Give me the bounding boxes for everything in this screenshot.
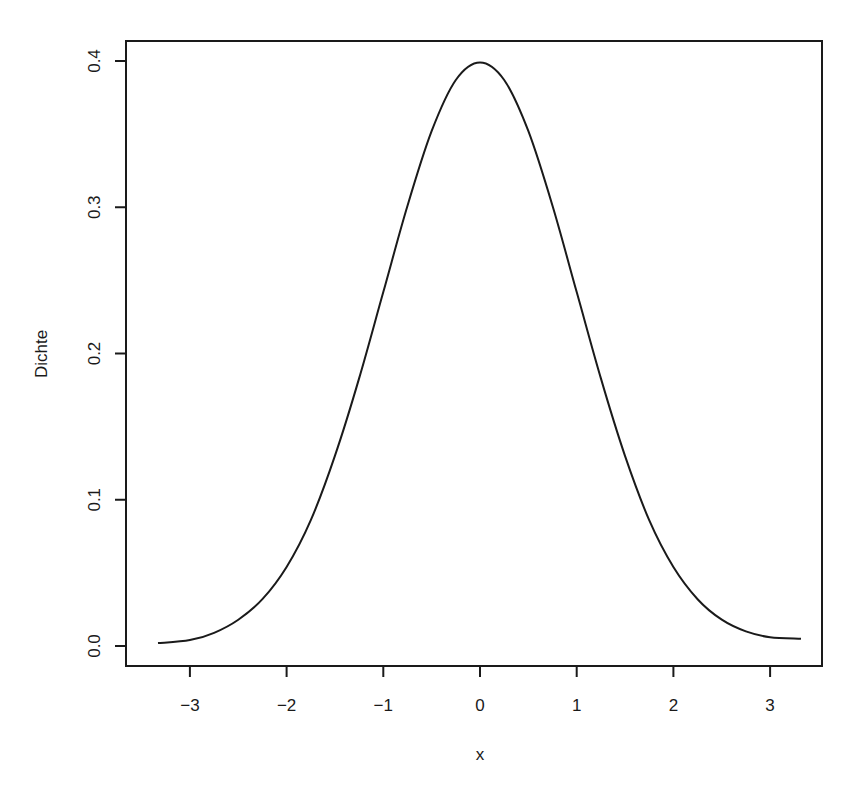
density-plot: −3−2−10123 0.00.10.20.30.4 x Dichte	[0, 0, 859, 793]
x-tick-label: −1	[374, 696, 393, 715]
plot-frame	[126, 41, 822, 666]
y-tick-label: 0.2	[85, 342, 104, 366]
density-curve	[158, 63, 801, 644]
y-tick-label: 0.1	[85, 488, 104, 512]
x-tick-label: −3	[180, 696, 199, 715]
x-tick-label: 2	[669, 696, 678, 715]
y-tick-label: 0.0	[85, 634, 104, 658]
y-tick-label: 0.3	[85, 195, 104, 219]
x-tick-label: 0	[475, 696, 484, 715]
x-tick-label: 1	[572, 696, 581, 715]
x-tick-label: 3	[765, 696, 774, 715]
x-axis: −3−2−10123	[180, 666, 775, 715]
y-tick-label: 0.4	[85, 49, 104, 73]
y-axis: 0.00.10.20.30.4	[85, 49, 126, 658]
x-axis-label: x	[476, 745, 485, 764]
x-tick-label: −2	[277, 696, 296, 715]
y-axis-label: Dichte	[32, 330, 51, 378]
